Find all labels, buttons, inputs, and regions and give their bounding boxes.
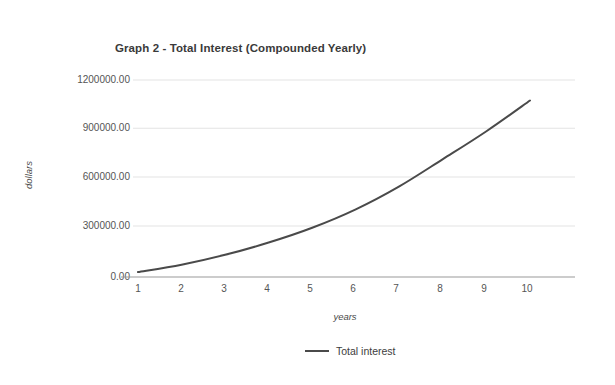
plot-area [0, 0, 615, 385]
line-swatch-icon [305, 350, 329, 352]
chart-container: Graph 2 - Total Interest (Compounded Yea… [0, 0, 615, 385]
legend: Total interest [305, 345, 396, 357]
series-line-total-interest [138, 101, 530, 273]
legend-item-label: Total interest [336, 345, 396, 357]
gridlines [133, 80, 575, 226]
